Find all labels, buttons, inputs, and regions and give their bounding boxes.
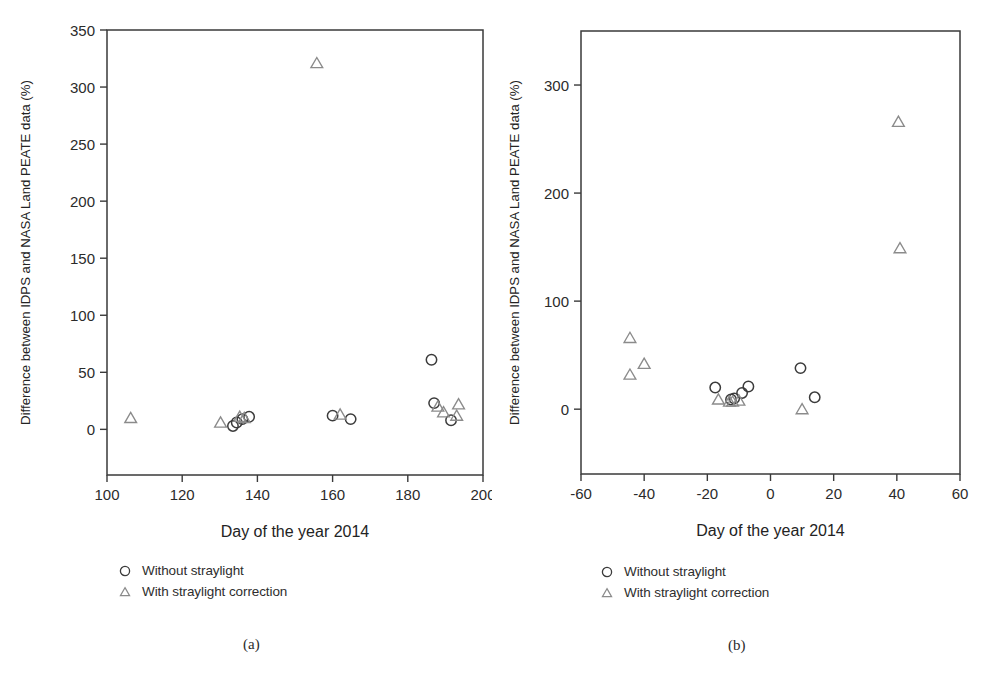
data-point-triangle [894,243,906,253]
scatter-plot-b: -60-40-2002040600100200300Day of the yea… [493,0,985,540]
y-tick-label: 0 [561,401,569,418]
y-tick-label: 100 [544,293,569,310]
x-tick-label: 0 [766,485,774,502]
data-point-circle [426,355,436,365]
x-tick-label: 40 [888,485,905,502]
data-point-triangle [215,417,227,427]
data-point-triangle [125,412,137,422]
y-axis-title: Difference between IDPS and NASA Land PE… [507,80,522,425]
caption-b: (b) [728,637,746,654]
data-point-circle [810,392,820,402]
triangle-marker-icon [108,585,142,599]
data-point-circle [345,414,355,424]
x-tick-label: 60 [952,485,969,502]
data-point-triangle [796,404,808,414]
y-tick-label: 350 [70,22,95,39]
x-tick-label: 200 [470,486,492,503]
x-tick-label: 140 [245,486,270,503]
data-point-circle [710,382,720,392]
data-point-triangle [638,358,650,368]
data-point-circle [743,381,753,391]
y-tick-label: 250 [70,136,95,153]
circle-marker-icon [108,564,142,578]
caption-a: (a) [243,636,260,653]
y-tick-label: 150 [70,250,95,267]
legend-row-with-straylight-a: With straylight correction [108,581,287,602]
x-tick-label: -40 [633,485,655,502]
series-with-straylight [624,116,906,414]
circle-marker-icon [590,565,624,579]
legend-label-with-straylight: With straylight correction [624,585,769,600]
figure-container: 100120140160180200050100150200250300350D… [0,0,985,686]
x-tick-label: -60 [570,485,592,502]
x-tick-label: 180 [395,486,420,503]
legend-label-with-straylight: With straylight correction [142,584,287,599]
x-tick-label: 160 [320,486,345,503]
y-tick-label: 300 [70,79,95,96]
legend-row-without-straylight-a: Without straylight [108,560,287,581]
y-tick-label: 200 [70,193,95,210]
data-point-triangle [311,57,323,67]
panel-b: -60-40-2002040600100200300Day of the yea… [493,0,985,686]
triangle-marker-icon [590,586,624,600]
data-point-triangle [893,116,905,126]
data-point-triangle [624,332,636,342]
legend-a: Without straylight With straylight corre… [108,560,287,602]
y-tick-label: 300 [544,77,569,94]
x-tick-label: 20 [825,485,842,502]
legend-label-without-straylight: Without straylight [624,564,726,579]
x-tick-label: 120 [170,486,195,503]
x-axis-title: Day of the year 2014 [696,522,845,539]
legend-row-with-straylight-b: With straylight correction [590,582,769,603]
x-tick-label: 100 [94,486,119,503]
x-tick-label: -20 [696,485,718,502]
y-tick-label: 200 [544,185,569,202]
y-tick-label: 50 [78,364,95,381]
data-point-triangle [624,369,636,379]
data-point-triangle [712,394,724,404]
plot-frame [107,30,483,475]
scatter-plot-a: 100120140160180200050100150200250300350D… [0,0,492,540]
x-axis-title: Day of the year 2014 [221,523,370,540]
legend-row-without-straylight-b: Without straylight [590,561,769,582]
panel-a: 100120140160180200050100150200250300350D… [0,0,492,686]
data-point-triangle [334,409,346,419]
y-axis-title: Difference between IDPS and NASA Land PE… [18,80,33,425]
data-point-circle [795,363,805,373]
y-tick-label: 0 [87,421,95,438]
series-with-straylight [125,57,465,427]
series-without-straylight [710,363,820,405]
data-point-triangle [453,399,465,409]
legend-b: Without straylight With straylight corre… [590,561,769,603]
y-tick-label: 100 [70,307,95,324]
legend-label-without-straylight: Without straylight [142,563,244,578]
